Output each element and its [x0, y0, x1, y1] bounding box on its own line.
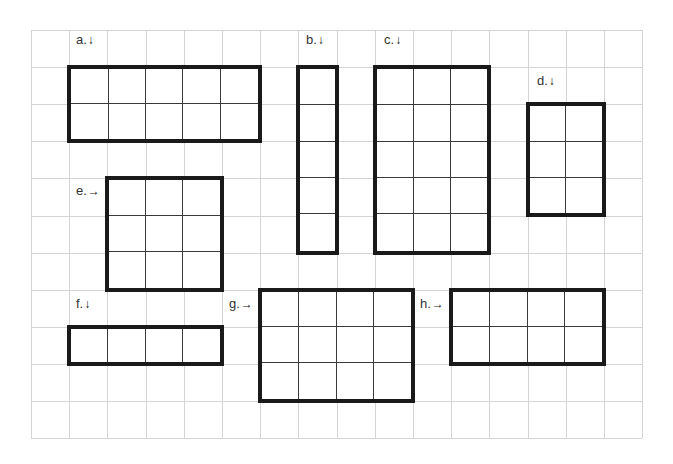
array-cell	[300, 214, 334, 250]
array-cell	[377, 142, 414, 178]
array-cell	[300, 105, 334, 141]
array-cell	[183, 69, 220, 104]
down-arrow-icon: ↓	[84, 297, 90, 311]
array-cell	[108, 329, 145, 362]
grid-line-vertical	[642, 30, 643, 438]
array-cell	[183, 252, 220, 288]
array-h	[449, 288, 606, 366]
array-cell	[490, 327, 527, 362]
down-arrow-icon: ↓	[88, 33, 94, 47]
grid-line-vertical	[31, 30, 32, 438]
array-cell	[377, 214, 414, 250]
array-cell	[566, 106, 602, 142]
array-cell	[183, 329, 220, 362]
array-cell	[299, 327, 336, 363]
array-cell	[414, 105, 451, 141]
array-cell	[490, 292, 527, 327]
array-cell	[262, 292, 299, 328]
array-cell	[414, 214, 451, 250]
array-cell	[566, 142, 602, 178]
array-cell	[414, 178, 451, 214]
array-cell	[183, 104, 220, 139]
array-cell	[109, 252, 146, 288]
grid-paper-worksheet: a.↓b.↓c.↓d.↓e.→f.↓g.→h.→	[0, 0, 673, 464]
array-c	[373, 65, 492, 255]
array-cell	[566, 178, 602, 214]
array-cell	[374, 363, 411, 399]
array-cell	[300, 142, 334, 178]
down-arrow-icon: ↓	[395, 33, 401, 47]
array-cell	[146, 252, 183, 288]
array-label-h: h.→	[420, 297, 444, 311]
array-cell	[183, 180, 220, 216]
array-f	[67, 325, 224, 366]
array-cell	[109, 216, 146, 252]
right-arrow-icon: →	[88, 184, 100, 198]
array-label-g: g.→	[229, 297, 253, 311]
array-cell	[146, 329, 183, 362]
array-cell	[299, 363, 336, 399]
array-d	[526, 102, 606, 217]
array-e	[105, 176, 224, 291]
label-text: h.	[420, 296, 431, 311]
array-cell	[146, 69, 183, 104]
array-cell	[71, 69, 108, 104]
array-g	[258, 288, 415, 403]
label-text: b.	[306, 32, 317, 47]
array-cell	[453, 292, 490, 327]
array-cell	[71, 329, 108, 362]
array-cell	[146, 104, 183, 139]
array-label-e: e.→	[76, 184, 100, 198]
grid-line-horizontal	[31, 438, 642, 439]
down-arrow-icon: ↓	[549, 74, 555, 88]
array-cell	[337, 292, 374, 328]
array-label-a: a.↓	[76, 33, 94, 47]
grid-line-horizontal	[31, 30, 642, 31]
array-cell	[451, 214, 488, 250]
array-cell	[414, 142, 451, 178]
array-cell	[451, 142, 488, 178]
array-cell	[565, 327, 602, 362]
grid-line-vertical	[604, 30, 605, 438]
array-label-f: f.↓	[76, 297, 90, 311]
array-cell	[414, 69, 451, 105]
label-text: e.	[76, 183, 87, 198]
array-cell	[530, 106, 566, 142]
array-cell	[337, 327, 374, 363]
array-label-d: d.↓	[537, 74, 555, 88]
array-cell	[71, 104, 108, 139]
array-label-b: b.↓	[306, 33, 324, 47]
array-cell	[374, 292, 411, 328]
array-a	[67, 65, 262, 143]
array-cell	[530, 178, 566, 214]
array-cell	[374, 327, 411, 363]
array-cell	[146, 216, 183, 252]
array-cell	[109, 69, 146, 104]
label-text: a.	[76, 32, 87, 47]
array-cell	[299, 292, 336, 328]
array-label-c: c.↓	[384, 33, 401, 47]
array-cell	[262, 327, 299, 363]
array-cell	[183, 216, 220, 252]
label-text: f.	[76, 296, 83, 311]
array-cell	[451, 69, 488, 105]
array-cell	[377, 69, 414, 105]
array-cell	[377, 105, 414, 141]
array-cell	[221, 104, 258, 139]
label-text: d.	[537, 73, 548, 88]
array-cell	[377, 178, 414, 214]
array-cell	[262, 363, 299, 399]
array-cell	[453, 327, 490, 362]
label-text: c.	[384, 32, 394, 47]
array-cell	[221, 69, 258, 104]
label-text: g.	[229, 296, 240, 311]
array-cell	[451, 178, 488, 214]
array-cell	[528, 327, 565, 362]
array-cell	[109, 180, 146, 216]
array-b	[296, 65, 338, 255]
array-cell	[565, 292, 602, 327]
right-arrow-icon: →	[241, 297, 253, 311]
down-arrow-icon: ↓	[318, 33, 324, 47]
array-cell	[300, 178, 334, 214]
array-cell	[528, 292, 565, 327]
